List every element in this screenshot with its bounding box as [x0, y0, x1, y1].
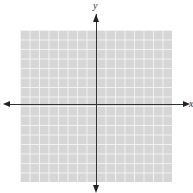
y-axis-label: y	[93, 1, 97, 11]
arrow-up-icon	[93, 14, 99, 22]
x-axis-label: x	[189, 99, 193, 109]
arrow-left-icon	[3, 101, 10, 107]
arrow-down-icon	[93, 185, 99, 193]
y-axis	[96, 14, 97, 188]
